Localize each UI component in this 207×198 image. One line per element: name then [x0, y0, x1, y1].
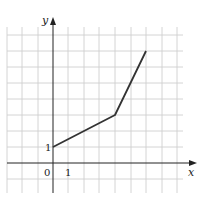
y-tick-1-label: 1 — [45, 142, 51, 153]
y-axis-arrow-icon — [50, 17, 56, 25]
x-axis-label: x — [188, 166, 195, 179]
origin-label: 0 — [44, 167, 50, 178]
y-axis-label: y — [41, 14, 49, 27]
graph: y x 0 1 1 — [0, 0, 207, 198]
axes — [7, 22, 192, 193]
x-tick-1-label: 1 — [65, 167, 71, 178]
grid — [7, 27, 183, 193]
